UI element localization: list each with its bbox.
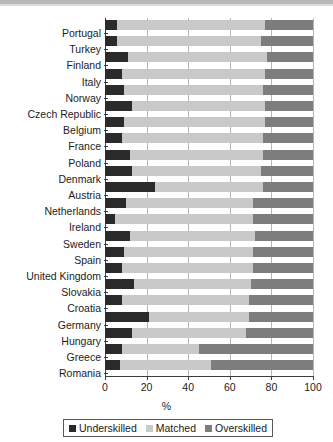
bar-segment-underskilled (105, 150, 130, 160)
y-tick (104, 292, 108, 293)
x-tick-40 (188, 376, 189, 380)
bar-segment-overskilled (246, 328, 313, 338)
y-label-belgium: Belgium (0, 125, 101, 135)
y-tick (104, 341, 108, 342)
bar-segment-matched (122, 69, 266, 79)
bar-segment-matched (115, 214, 252, 224)
y-label-portugal: Portugal (0, 28, 101, 38)
bar-segment-matched (155, 182, 263, 192)
y-tick (104, 82, 108, 83)
bar-row (105, 295, 313, 305)
bar-segment-matched (122, 263, 253, 273)
bar-row (105, 263, 313, 273)
bar-row (105, 198, 313, 208)
bar-segment-overskilled (265, 69, 313, 79)
y-label-norway: Norway (0, 93, 101, 103)
bar-segment-overskilled (199, 344, 313, 354)
y-tick (104, 357, 108, 358)
bar-row (105, 344, 313, 354)
bar-segment-matched (124, 85, 263, 95)
scan-artifact-top-secondary (0, 4, 333, 6)
chart-legend: Underskilled Matched Overskilled (63, 419, 273, 437)
bar-segment-underskilled (105, 214, 115, 224)
y-label-turkey: Turkey (0, 44, 101, 54)
bar-segment-overskilled (253, 214, 313, 224)
legend-swatch-matched (146, 425, 153, 432)
bar-segment-underskilled (105, 69, 122, 79)
x-tick-label-80: 80 (256, 382, 286, 393)
bar-segment-underskilled (105, 52, 128, 62)
bar-segment-underskilled (105, 182, 155, 192)
bar-row (105, 52, 313, 62)
bar-segment-overskilled (211, 360, 313, 370)
x-tick-60 (230, 376, 231, 380)
bar-segment-matched (122, 295, 249, 305)
bar-segment-overskilled (265, 117, 313, 127)
x-tick-0 (105, 376, 106, 380)
bar-segment-underskilled (105, 328, 132, 338)
x-tick-label-0: 0 (90, 382, 120, 393)
gridline-100 (313, 18, 314, 376)
bar-row (105, 166, 313, 176)
y-label-croatia: Croatia (0, 303, 101, 313)
bar-row (105, 20, 313, 30)
bar-segment-overskilled (249, 312, 313, 322)
y-tick (104, 114, 108, 115)
y-tick (104, 163, 108, 164)
bar-row (105, 279, 313, 289)
bar-row (105, 150, 313, 160)
bar-row (105, 214, 313, 224)
bar-segment-matched (124, 247, 253, 257)
bar-segment-matched (132, 166, 261, 176)
bar-segment-overskilled (249, 295, 313, 305)
bar-segment-overskilled (255, 231, 313, 241)
bar-segment-matched (126, 198, 253, 208)
bar-segment-matched (117, 36, 261, 46)
bar-segment-matched (132, 328, 246, 338)
bar-segment-underskilled (105, 36, 117, 46)
bar-segment-underskilled (105, 101, 132, 111)
legend-item-underskilled: Underskilled (69, 422, 137, 434)
y-tick (104, 179, 108, 180)
x-tick-label-100: 100 (298, 382, 328, 393)
y-label-czech-republic: Czech Republic (0, 109, 101, 119)
bar-segment-overskilled (253, 247, 313, 257)
y-label-hungary: Hungary (0, 336, 101, 346)
bar-row (105, 101, 313, 111)
y-label-sweden: Sweden (0, 239, 101, 249)
bar-row (105, 133, 313, 143)
y-label-denmark: Denmark (0, 174, 101, 184)
bar-segment-underskilled (105, 198, 126, 208)
bar-segment-underskilled (105, 20, 117, 30)
legend-label-matched: Matched (156, 422, 196, 434)
bar-segment-overskilled (263, 182, 313, 192)
y-tick (104, 260, 108, 261)
bar-row (105, 117, 313, 127)
bar-segment-underskilled (105, 344, 122, 354)
bar-segment-underskilled (105, 133, 122, 143)
y-tick (104, 98, 108, 99)
bar-segment-overskilled (261, 166, 313, 176)
bar-segment-matched (149, 312, 249, 322)
stacked-bar-chart: PortugalTurkeyFinlandItalyNorwayCzech Re… (0, 8, 333, 388)
x-tick-label-20: 20 (132, 382, 162, 393)
bar-row (105, 231, 313, 241)
bar-segment-matched (130, 150, 263, 160)
bar-segment-overskilled (267, 52, 313, 62)
bar-segment-underskilled (105, 231, 130, 241)
bar-segment-overskilled (263, 85, 313, 95)
x-tick-label-40: 40 (173, 382, 203, 393)
bar-segment-overskilled (265, 20, 313, 30)
y-axis-category-labels: PortugalTurkeyFinlandItalyNorwayCzech Re… (0, 26, 101, 384)
legend-swatch-underskilled (69, 425, 76, 432)
bar-segment-matched (122, 344, 199, 354)
bar-segment-matched (122, 133, 263, 143)
y-tick (104, 276, 108, 277)
bar-segment-underskilled (105, 263, 122, 273)
bar-segment-underskilled (105, 166, 132, 176)
y-tick (104, 227, 108, 228)
bar-segment-matched (128, 52, 267, 62)
bar-row (105, 85, 313, 95)
y-label-finland: Finland (0, 60, 101, 70)
bar-segment-overskilled (253, 263, 313, 273)
